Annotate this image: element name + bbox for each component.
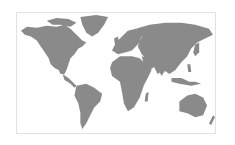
philippines — [187, 64, 191, 72]
arctic-archipelago — [47, 18, 77, 27]
australia — [179, 94, 207, 118]
greenland — [80, 15, 108, 37]
india — [158, 58, 168, 76]
world-map-frame: World map — [16, 12, 216, 134]
north-america — [21, 25, 86, 74]
indonesia — [171, 78, 201, 86]
central-america — [63, 74, 77, 88]
world-map-svg — [17, 13, 215, 133]
new-zealand — [209, 115, 215, 125]
madagascar — [145, 92, 149, 102]
south-america — [74, 84, 102, 129]
